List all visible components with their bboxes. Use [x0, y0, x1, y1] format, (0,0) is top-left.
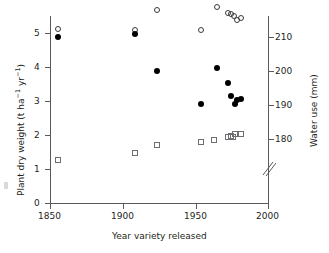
x-ticklabel-1900: 1900	[111, 212, 134, 221]
y-tick-2	[45, 135, 50, 136]
x-axis-title: Year variety released	[112, 232, 207, 241]
y-axis-title: Plant dry weight (t ha−1 yr−1)	[14, 64, 26, 196]
y-axis-left-line	[50, 16, 51, 204]
x-ticklabel-1950: 1950	[184, 212, 207, 221]
y2-tick-200	[269, 71, 274, 72]
y-axis-title-sup2: −1	[14, 67, 22, 77]
y-ticklabel-0: 0	[34, 199, 40, 208]
data-point-filled-circle	[154, 68, 160, 74]
x-tick-2000	[268, 204, 269, 209]
data-point-open-square	[198, 139, 204, 145]
y2-ticklabel-190: 190	[275, 101, 292, 110]
y2-ticklabel-200: 200	[275, 67, 292, 76]
data-point-filled-circle	[55, 34, 61, 40]
y-ticklabel-5: 5	[34, 29, 40, 38]
axis-break-icon	[262, 160, 276, 178]
y-tick-4	[45, 67, 50, 68]
data-point-filled-circle	[132, 31, 138, 37]
x-tick-1950	[196, 204, 197, 209]
y2-ticklabel-180: 180	[275, 135, 292, 144]
y2-tick-210	[269, 37, 274, 38]
data-point-open-circle	[55, 26, 61, 32]
data-point-open-circle	[238, 15, 244, 21]
x-tick-1900	[123, 204, 124, 209]
y-tick-1	[45, 169, 50, 170]
x-ticklabel-2000: 2000	[256, 212, 279, 221]
y-ticklabel-4: 4	[34, 63, 40, 72]
data-point-open-square	[132, 150, 138, 156]
x-tick-1850	[50, 204, 51, 209]
x-axis-line	[50, 203, 269, 204]
data-point-open-square	[154, 142, 160, 148]
scatter-chart-figure: 5 4 3 2 1 0 210 200 190 180 1850 1900 19…	[0, 0, 329, 253]
y-ticklabel-2: 2	[34, 131, 40, 140]
y-axis-title-sup1: −1	[14, 89, 22, 99]
x-ticklabel-1850: 1850	[38, 212, 61, 221]
y2-axis-title: Water use (mm)	[310, 74, 319, 147]
data-point-filled-circle	[225, 80, 231, 86]
data-point-open-square	[238, 131, 244, 137]
y-ticklabel-1: 1	[34, 165, 40, 174]
data-point-open-circle	[198, 27, 204, 33]
y2-ticklabel-210: 210	[275, 33, 292, 42]
y-axis-title-main: Plant dry weight (t ha	[16, 99, 26, 196]
data-point-filled-circle	[238, 96, 244, 102]
y-axis-title-tail: )	[16, 64, 26, 68]
y2-tick-190	[269, 105, 274, 106]
data-point-open-circle	[214, 4, 220, 10]
y-tick-3	[45, 101, 50, 102]
scan-edge-artifact	[4, 182, 8, 189]
y-ticklabel-3: 3	[34, 97, 40, 106]
data-point-filled-circle	[214, 65, 220, 71]
y-axis-title-mid: yr	[16, 77, 26, 89]
data-point-filled-circle	[198, 101, 204, 107]
data-point-open-circle	[154, 7, 160, 13]
y2-tick-180	[269, 139, 274, 140]
data-point-open-square	[55, 157, 61, 163]
data-point-open-square	[211, 137, 217, 143]
y-tick-5	[45, 33, 50, 34]
